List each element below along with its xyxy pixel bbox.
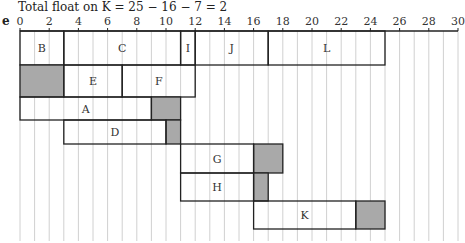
- cascade-chart: 024681012141618202224262830 BCIJLEFADGHK: [0, 0, 465, 243]
- tick-label: 30: [451, 15, 465, 28]
- activity-bars: BCIJLEFADGHK: [20, 31, 385, 229]
- float-block: [151, 97, 180, 120]
- float-block: [20, 65, 64, 97]
- activity-label: K: [301, 209, 310, 222]
- time-axis: 024681012141618202224262830: [17, 15, 465, 31]
- float-block: [356, 201, 385, 229]
- activity-label: D: [110, 126, 119, 139]
- activity-label: G: [213, 153, 222, 166]
- grid-lines: [20, 31, 458, 241]
- tick-label: 18: [276, 15, 290, 28]
- tick-label: 4: [75, 15, 82, 28]
- activity-label: E: [89, 75, 97, 88]
- tick-label: 2: [46, 15, 53, 28]
- tick-label: 20: [305, 15, 319, 28]
- activity-label: B: [38, 42, 46, 55]
- tick-label: 26: [393, 15, 407, 28]
- activity-label: I: [186, 42, 190, 55]
- tick-label: 0: [17, 15, 24, 28]
- activity-label: L: [323, 42, 331, 55]
- activity-label: H: [212, 181, 222, 194]
- activity-label: C: [118, 42, 126, 55]
- tick-label: 6: [104, 15, 111, 28]
- tick-label: 14: [217, 15, 231, 28]
- activity-label: J: [228, 42, 233, 55]
- activity-label: F: [155, 75, 163, 88]
- float-block: [166, 120, 181, 144]
- tick-label: 16: [247, 15, 261, 28]
- activity-label: A: [81, 103, 91, 116]
- float-block: [254, 144, 283, 173]
- tick-label: 22: [334, 15, 348, 28]
- tick-label: 12: [188, 15, 202, 28]
- tick-label: 8: [133, 15, 140, 28]
- tick-label: 28: [422, 15, 436, 28]
- float-block: [254, 173, 269, 201]
- tick-label: 24: [363, 15, 377, 28]
- tick-label: 10: [159, 15, 173, 28]
